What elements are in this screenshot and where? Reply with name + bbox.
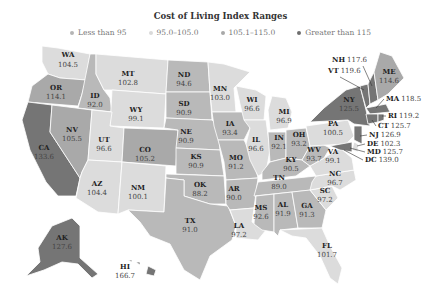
value-HI: 166.7	[115, 272, 135, 280]
svg-text:FL: FL	[322, 241, 332, 250]
svg-text:97.2: 97.2	[317, 196, 333, 204]
svg-text:CO: CO	[139, 145, 151, 154]
svg-text:97.2: 97.2	[231, 231, 247, 239]
svg-text:GA: GA	[301, 201, 313, 210]
svg-text:90.9: 90.9	[188, 162, 204, 170]
svg-text:96.7: 96.7	[327, 179, 343, 187]
svg-text:MI: MI	[278, 107, 289, 116]
svg-text:93.4: 93.4	[222, 129, 238, 137]
state-CT[interactable]	[366, 114, 378, 124]
svg-text:WV: WV	[306, 145, 321, 154]
svg-text:88.2: 88.2	[192, 190, 208, 198]
svg-text:100.5: 100.5	[323, 129, 343, 137]
svg-text:114.6: 114.6	[379, 77, 400, 85]
svg-text:NC: NC	[329, 169, 341, 178]
svg-text:99.1: 99.1	[128, 115, 144, 123]
svg-text:96.9: 96.9	[276, 117, 292, 125]
label-AK: AK	[55, 233, 68, 242]
svg-text:ME: ME	[382, 67, 395, 76]
svg-text:MA118.5: MA118.5	[386, 94, 421, 103]
svg-text:91.3: 91.3	[299, 211, 315, 219]
svg-text:103.0: 103.0	[210, 94, 230, 102]
svg-text:AZ: AZ	[91, 179, 103, 188]
svg-text:WA: WA	[61, 50, 75, 59]
value-AK: 127.6	[52, 243, 73, 251]
svg-text:MO: MO	[229, 153, 243, 162]
label-HI: HI	[120, 262, 130, 271]
svg-text:ID: ID	[90, 91, 99, 100]
svg-text:LA: LA	[234, 221, 245, 230]
svg-text:VA: VA	[327, 147, 339, 156]
svg-text:IL: IL	[252, 135, 260, 144]
svg-text:RI119.2: RI119.2	[388, 111, 419, 120]
svg-text:OR: OR	[50, 83, 62, 92]
svg-text:NE: NE	[180, 127, 192, 136]
svg-text:96.6: 96.6	[96, 145, 112, 153]
svg-text:89.0: 89.0	[271, 183, 287, 191]
svg-text:CA: CA	[38, 143, 50, 152]
svg-text:96.6: 96.6	[248, 145, 264, 153]
svg-text:PA: PA	[328, 119, 339, 128]
svg-text:90.9: 90.9	[178, 137, 194, 145]
svg-text:105.2: 105.2	[135, 155, 155, 163]
svg-text:90.5: 90.5	[283, 165, 299, 173]
svg-text:IA: IA	[226, 119, 235, 128]
svg-text:94.6: 94.6	[176, 80, 192, 88]
svg-text:91.0: 91.0	[182, 226, 198, 234]
svg-text:CT125.7: CT125.7	[378, 121, 411, 130]
state-ME[interactable]	[374, 52, 404, 100]
state-NJ[interactable]	[354, 126, 362, 144]
svg-text:OH: OH	[293, 130, 306, 139]
svg-text:MN: MN	[213, 84, 228, 93]
svg-text:92.1: 92.1	[271, 143, 287, 151]
svg-text:93.2: 93.2	[291, 140, 307, 148]
svg-text:SC: SC	[320, 186, 331, 195]
svg-text:ND: ND	[178, 70, 190, 79]
svg-text:133.6: 133.6	[34, 153, 55, 161]
svg-text:NM: NM	[131, 183, 145, 192]
svg-text:102.8: 102.8	[118, 79, 138, 87]
us-map: WA104.5 OR114.1 CA133.6 ID92.0 NV105.5 M…	[0, 0, 441, 297]
svg-text:MS: MS	[255, 203, 268, 212]
svg-text:WY: WY	[129, 105, 144, 114]
svg-text:SD: SD	[178, 99, 189, 108]
svg-text:VT119.6: VT119.6	[327, 66, 361, 75]
svg-text:100.1: 100.1	[128, 193, 148, 201]
svg-text:KS: KS	[190, 152, 201, 161]
svg-text:NH117.6: NH117.6	[332, 55, 368, 64]
svg-text:114.1: 114.1	[46, 93, 66, 101]
svg-text:NV: NV	[66, 125, 78, 134]
svg-text:TX: TX	[185, 216, 196, 225]
state-DE[interactable]	[352, 142, 358, 152]
svg-text:101.7: 101.7	[317, 251, 337, 259]
svg-text:92.0: 92.0	[87, 101, 103, 109]
svg-text:DC139.0: DC139.0	[365, 155, 399, 164]
svg-text:UT: UT	[98, 135, 110, 144]
svg-text:OK: OK	[194, 180, 207, 189]
svg-text:104.4: 104.4	[87, 189, 108, 197]
svg-text:AR: AR	[227, 184, 239, 193]
svg-text:92.6: 92.6	[253, 213, 269, 221]
svg-text:AL: AL	[277, 200, 288, 209]
svg-text:125.5: 125.5	[339, 105, 359, 113]
svg-text:MT: MT	[122, 69, 136, 78]
svg-text:NJ126.9: NJ126.9	[369, 130, 401, 139]
svg-text:93.7: 93.7	[306, 155, 322, 163]
svg-text:99.1: 99.1	[325, 157, 341, 165]
svg-text:NY: NY	[343, 95, 355, 104]
svg-text:91.9: 91.9	[275, 210, 291, 218]
svg-text:90.0: 90.0	[226, 194, 242, 202]
svg-text:104.5: 104.5	[58, 61, 78, 69]
svg-text:105.5: 105.5	[62, 135, 82, 143]
svg-text:90.9: 90.9	[176, 109, 192, 117]
svg-text:91.2: 91.2	[228, 163, 244, 171]
svg-text:TN: TN	[273, 173, 285, 182]
svg-text:KY: KY	[286, 155, 298, 164]
svg-text:96.6: 96.6	[244, 105, 260, 113]
svg-text:IN: IN	[274, 133, 284, 142]
svg-text:WI: WI	[245, 95, 257, 104]
